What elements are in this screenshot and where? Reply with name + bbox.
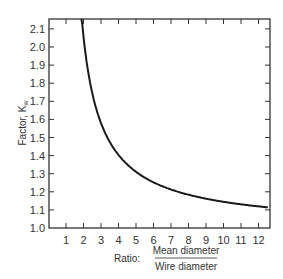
- plot-frame: [49, 19, 270, 228]
- y-tick-label: 1.7: [30, 95, 45, 107]
- x-tick-label: 12: [252, 234, 264, 246]
- y-axis-title: Factor, Kw: [17, 100, 29, 146]
- svg-text:Mean diameter: Mean diameter: [153, 245, 220, 256]
- svg-text:Ratio:: Ratio:: [114, 253, 140, 264]
- y-tick-label: 1.2: [30, 186, 45, 198]
- y-tick-label: 2.1: [30, 23, 45, 35]
- x-tick-label: 1: [63, 234, 69, 246]
- x-axis-ticks: [66, 19, 259, 228]
- y-tick-label: 1.1: [30, 204, 45, 216]
- y-tick-label: 1.3: [30, 168, 45, 180]
- x-tick-label: 4: [115, 234, 121, 246]
- svg-text:Wire diameter: Wire diameter: [155, 261, 218, 272]
- y-tick-label: 1.4: [30, 150, 45, 162]
- y-tick-label: 1.0: [30, 222, 45, 234]
- y-tick-label: 1.9: [30, 59, 45, 71]
- y-axis-ticks: [49, 29, 270, 210]
- chart: 123456789101112 1.01.11.21.31.41.51.61.7…: [0, 0, 283, 279]
- y-axis-tick-labels: 1.01.11.21.31.41.51.61.71.81.92.02.1: [30, 23, 45, 234]
- y-tick-label: 2.0: [30, 41, 45, 53]
- x-tick-label: 5: [133, 234, 139, 246]
- x-axis-title: Ratio: Mean diameter Wire diameter: [114, 245, 220, 272]
- y-tick-label: 1.8: [30, 77, 45, 89]
- y-tick-label: 1.5: [30, 132, 45, 144]
- kw-curve: [81, 19, 267, 207]
- x-tick-label: 11: [235, 234, 246, 246]
- x-tick-label: 3: [98, 234, 104, 246]
- x-tick-label: 2: [80, 234, 86, 246]
- svg-text:Factor, Kw: Factor, Kw: [17, 100, 29, 146]
- y-tick-label: 1.6: [30, 113, 45, 125]
